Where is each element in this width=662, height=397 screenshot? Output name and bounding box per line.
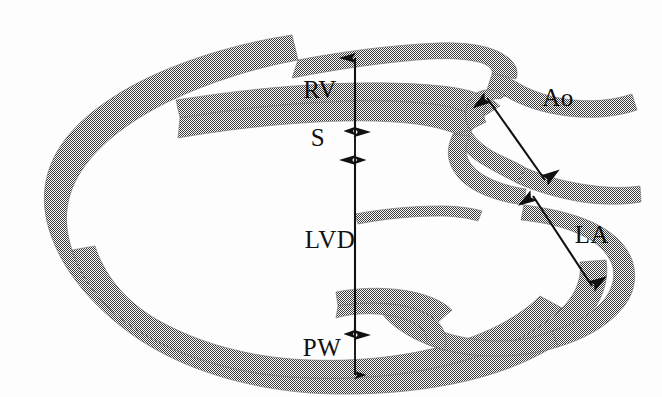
label-s: S [311, 124, 325, 151]
echocardiogram-diagram: RV S LVD PW Ao LA [0, 0, 662, 397]
anterior-mitral-leaflet-streak [355, 206, 482, 224]
heart-cross-section-svg: RV S LVD PW Ao LA [0, 0, 662, 397]
label-lvd: LVD [305, 226, 356, 253]
label-pw: PW [303, 334, 342, 361]
label-la: LA [575, 221, 609, 248]
rv-anterior-wall [292, 43, 517, 79]
label-ao: Ao [542, 84, 574, 111]
label-rv: RV [303, 76, 337, 103]
